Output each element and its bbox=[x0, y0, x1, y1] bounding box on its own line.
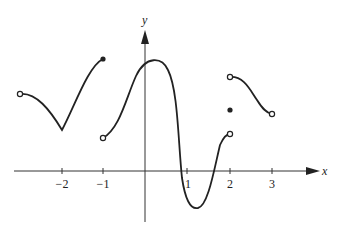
curve-piece-1 bbox=[20, 59, 103, 130]
function-graph: −2 −1 1 2 3 x y bbox=[0, 0, 339, 233]
open-endpoint bbox=[269, 111, 274, 116]
isolated-point bbox=[227, 107, 232, 112]
closed-endpoint bbox=[100, 56, 105, 61]
tick-label: −2 bbox=[56, 177, 69, 191]
open-endpoint bbox=[227, 131, 232, 136]
y-axis-label: y bbox=[141, 13, 148, 27]
x-axis-arrow-icon bbox=[306, 167, 320, 175]
tick-label: 2 bbox=[227, 177, 233, 191]
open-endpoint bbox=[100, 135, 105, 140]
y-axis-arrow-icon bbox=[141, 30, 149, 44]
tick-label: 3 bbox=[269, 177, 275, 191]
tick-label: 1 bbox=[185, 177, 191, 191]
x-axis-label: x bbox=[321, 164, 328, 178]
curve-piece-3 bbox=[230, 77, 272, 114]
tick-label: −1 bbox=[97, 177, 110, 191]
curve-piece-2 bbox=[103, 60, 230, 208]
open-endpoint bbox=[227, 74, 232, 79]
open-endpoint bbox=[17, 91, 22, 96]
